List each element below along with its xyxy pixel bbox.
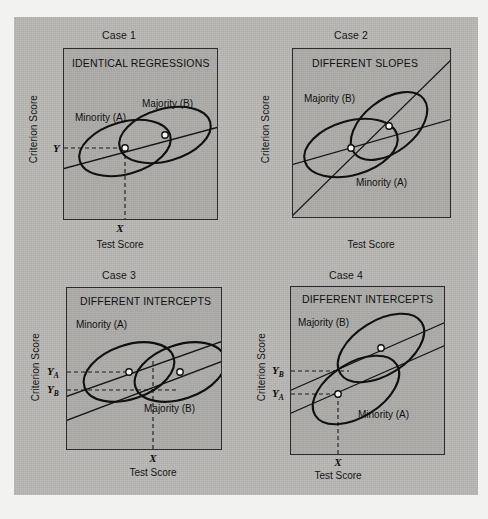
panel-heading-3: DIFFERENT INTERCEPTS (80, 295, 211, 307)
panel-heading-4: DIFFERENT INTERCEPTS (302, 293, 433, 305)
centroid-minority-a-2 (348, 145, 354, 151)
chart-panel-case-3: Case 3 Criterion Score YA YB X Test Scor… (14, 261, 246, 495)
chart-panel-case-2: Case 2 Criterion Score Test Score DIFFER… (246, 17, 478, 261)
group-label-minority-a-4: Minority (A) (358, 409, 409, 420)
ellipse-minority-a-4 (301, 342, 411, 439)
group-label-minority-a-3: Minority (A) (76, 319, 127, 330)
plot-graphics-1 (14, 17, 246, 261)
centroid-majority-b-3 (177, 369, 183, 375)
group-label-minority-a-1: Minority (A) (75, 112, 126, 123)
panel-heading-1: IDENTICAL REGRESSIONS (72, 57, 210, 69)
centroid-minority-a-3 (126, 369, 132, 375)
centroid-majority-b-2 (386, 123, 392, 129)
group-label-majority-b-1: Majority (B) (142, 98, 193, 109)
panel-heading-2: DIFFERENT SLOPES (312, 57, 418, 69)
regression-line-minority-a-2 (291, 119, 452, 165)
centroid-majority-b-1 (162, 132, 168, 138)
group-label-majority-b-3: Majority (B) (144, 403, 195, 414)
centroid-minority-a-1 (122, 145, 128, 151)
figure-panel: Case 1 Criterion Score Y X Test Score ID… (14, 17, 478, 495)
group-label-minority-a-2: Minority (A) (356, 177, 407, 188)
plot-graphics-2 (246, 17, 478, 261)
chart-panel-case-4: Case 4 Criterion Score YB YA X Test Scor… (246, 261, 478, 495)
group-label-majority-b-2: Majority (B) (304, 93, 355, 104)
group-label-majority-b-4: Majority (B) (298, 317, 349, 328)
centroid-majority-b-4 (378, 345, 384, 351)
centroid-minority-a-4 (335, 391, 341, 397)
chart-panel-case-1: Case 1 Criterion Score Y X Test Score ID… (14, 17, 246, 261)
